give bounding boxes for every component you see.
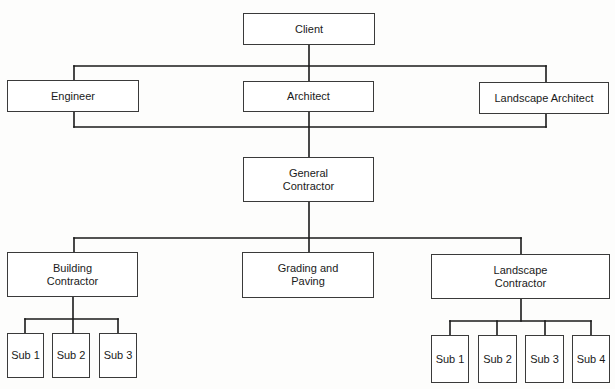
node-architect[interactable]: Architect xyxy=(243,81,374,112)
org-chart-canvas: Client Engineer Architect Landscape Arch… xyxy=(0,0,615,389)
node-landscape-architect[interactable]: Landscape Architect xyxy=(479,82,609,114)
node-client[interactable]: Client xyxy=(243,13,375,45)
node-landscape-sub-2[interactable]: Sub 2 xyxy=(478,335,517,383)
node-building-sub-2[interactable]: Sub 2 xyxy=(52,333,90,378)
node-building-sub-1[interactable]: Sub 1 xyxy=(7,333,44,378)
node-building-sub-3[interactable]: Sub 3 xyxy=(99,333,137,378)
node-landscape-sub-4[interactable]: Sub 4 xyxy=(572,335,610,383)
node-grading-and-paving[interactable]: Grading and Paving xyxy=(242,252,374,298)
node-general-contractor[interactable]: General Contractor xyxy=(243,157,374,202)
node-engineer[interactable]: Engineer xyxy=(7,80,139,112)
node-building-contractor[interactable]: Building Contractor xyxy=(7,252,138,297)
node-landscape-sub-1[interactable]: Sub 1 xyxy=(431,335,469,383)
node-landscape-sub-3[interactable]: Sub 3 xyxy=(525,335,564,383)
node-landscape-contractor[interactable]: Landscape Contractor xyxy=(431,254,610,299)
